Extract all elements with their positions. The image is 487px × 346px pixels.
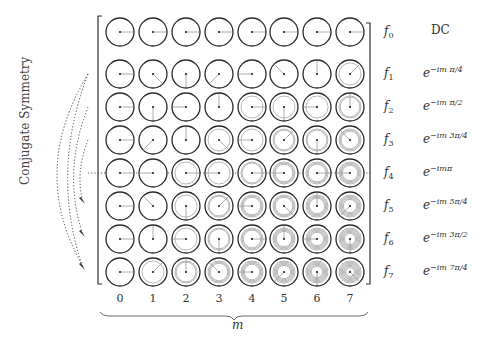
column-label-m3: 3: [209, 292, 229, 305]
column-label-m7: 7: [340, 292, 360, 305]
column-label-m0: 0: [110, 292, 130, 305]
basis-expression-f0: DC: [431, 23, 450, 37]
basis-expression-f6: e−im 3π/2: [423, 230, 468, 245]
basis-expression-f3: e−im 3π/4: [423, 131, 468, 146]
frequency-label-f3: f3: [384, 132, 394, 148]
column-label-m2: 2: [176, 292, 196, 305]
conjugate-symmetry-label: Conjugate Symmetry: [18, 57, 32, 185]
basis-expression-f5: e−im 5π/4: [423, 197, 468, 212]
frequency-label-f1: f1: [384, 66, 394, 82]
column-label-m6: 6: [307, 292, 327, 305]
basis-expression-f1: e−im π/4: [423, 65, 463, 80]
basis-expression-f4: e−imπ: [423, 164, 452, 179]
frequency-label-f7: f7: [384, 264, 394, 280]
frequency-label-f0: f0: [384, 24, 394, 40]
column-label-m4: 4: [242, 292, 262, 305]
frequency-label-f4: f4: [384, 165, 394, 181]
column-label-m1: 1: [143, 292, 163, 305]
frequency-label-f5: f5: [384, 198, 394, 214]
column-label-m5: 5: [274, 292, 294, 305]
basis-expression-f7: e−im 7π/4: [423, 263, 468, 278]
frequency-label-f6: f6: [384, 231, 394, 247]
left-bracket: [98, 16, 102, 284]
frequency-label-f2: f2: [384, 99, 394, 115]
basis-expression-f2: e−im π/2: [423, 98, 463, 113]
right-bracket: [366, 23, 370, 284]
m-axis-label: m: [232, 318, 243, 332]
